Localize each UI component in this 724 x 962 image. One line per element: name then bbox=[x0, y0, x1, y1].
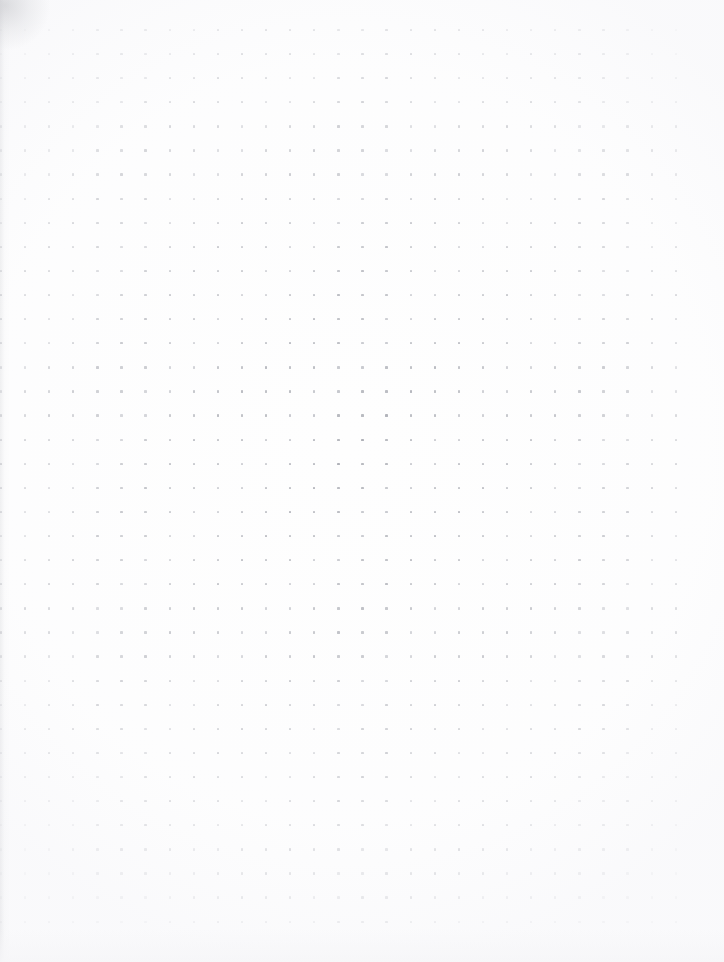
grid-dot bbox=[217, 439, 219, 441]
grid-dot bbox=[120, 318, 122, 320]
grid-dot bbox=[313, 631, 315, 633]
grid-dot bbox=[385, 246, 387, 248]
grid-dot bbox=[602, 776, 604, 778]
grid-dot bbox=[675, 752, 677, 754]
grid-dot bbox=[458, 655, 460, 657]
grid-dot bbox=[458, 800, 460, 802]
grid-dot bbox=[313, 776, 315, 778]
grid-dot bbox=[241, 101, 243, 103]
grid-dot bbox=[651, 704, 653, 706]
grid-dot bbox=[72, 77, 74, 79]
grid-dot bbox=[193, 921, 195, 923]
grid-dot bbox=[410, 680, 412, 682]
grid-dot bbox=[482, 77, 484, 79]
grid-dot bbox=[289, 198, 291, 200]
grid-dot bbox=[410, 101, 412, 103]
grid-dot bbox=[0, 921, 2, 923]
grid-dot bbox=[48, 848, 50, 850]
grid-dot bbox=[24, 800, 26, 802]
grid-dot bbox=[482, 149, 484, 151]
grid-dot bbox=[361, 53, 363, 55]
grid-dot bbox=[506, 390, 508, 392]
grid-dot bbox=[289, 101, 291, 103]
grid-dot bbox=[554, 848, 556, 850]
grid-dot bbox=[193, 559, 195, 561]
grid-dot bbox=[578, 631, 580, 633]
grid-dot bbox=[337, 125, 339, 127]
grid-dot bbox=[241, 222, 243, 224]
grid-dot bbox=[410, 53, 412, 55]
grid-dot bbox=[24, 704, 26, 706]
grid-dot bbox=[144, 77, 146, 79]
grid-dot bbox=[96, 704, 98, 706]
grid-dot bbox=[96, 246, 98, 248]
grid-dot bbox=[530, 246, 532, 248]
grid-dot bbox=[120, 631, 122, 633]
grid-dot bbox=[24, 487, 26, 489]
grid-dot bbox=[72, 800, 74, 802]
grid-dot bbox=[602, 222, 604, 224]
grid-dot bbox=[0, 607, 2, 609]
grid-dot bbox=[578, 463, 580, 465]
grid-dot bbox=[626, 896, 628, 898]
grid-dot bbox=[530, 270, 532, 272]
grid-dot bbox=[506, 198, 508, 200]
grid-dot bbox=[530, 680, 532, 682]
grid-dot bbox=[458, 824, 460, 826]
grid-dot bbox=[410, 535, 412, 537]
grid-dot bbox=[217, 752, 219, 754]
grid-dot bbox=[410, 631, 412, 633]
grid-dot bbox=[675, 198, 677, 200]
grid-dot bbox=[241, 270, 243, 272]
grid-dot bbox=[217, 896, 219, 898]
grid-dot bbox=[578, 29, 580, 31]
grid-dot bbox=[24, 270, 26, 272]
grid-dot bbox=[313, 222, 315, 224]
grid-dot bbox=[626, 704, 628, 706]
grid-dot bbox=[120, 414, 122, 416]
grid-dot bbox=[675, 728, 677, 730]
grid-dot bbox=[410, 511, 412, 513]
grid-dot bbox=[578, 342, 580, 344]
grid-dot bbox=[193, 535, 195, 537]
grid-dot bbox=[385, 270, 387, 272]
grid-dot bbox=[337, 149, 339, 151]
grid-dot bbox=[385, 559, 387, 561]
grid-dot bbox=[217, 680, 219, 682]
grid-dot bbox=[24, 583, 26, 585]
grid-dot bbox=[434, 342, 436, 344]
grid-dot bbox=[120, 29, 122, 31]
grid-dot bbox=[626, 463, 628, 465]
grid-dot bbox=[241, 921, 243, 923]
grid-dot bbox=[265, 583, 267, 585]
grid-dot bbox=[217, 511, 219, 513]
grid-dot bbox=[313, 824, 315, 826]
grid-dot bbox=[554, 390, 556, 392]
grid-dot bbox=[24, 149, 26, 151]
grid-dot bbox=[0, 198, 2, 200]
dot-grid-layer bbox=[0, 0, 724, 962]
grid-dot bbox=[289, 222, 291, 224]
grid-dot bbox=[265, 29, 267, 31]
grid-dot bbox=[554, 246, 556, 248]
grid-dot bbox=[337, 318, 339, 320]
grid-dot bbox=[410, 342, 412, 344]
grid-dot bbox=[120, 728, 122, 730]
grid-dot bbox=[385, 53, 387, 55]
grid-dot bbox=[24, 53, 26, 55]
grid-dot bbox=[458, 270, 460, 272]
grid-dot bbox=[120, 921, 122, 923]
grid-dot bbox=[169, 222, 171, 224]
grid-dot bbox=[96, 921, 98, 923]
grid-dot bbox=[410, 198, 412, 200]
grid-dot bbox=[385, 342, 387, 344]
grid-dot bbox=[458, 53, 460, 55]
grid-dot bbox=[24, 607, 26, 609]
grid-dot bbox=[289, 583, 291, 585]
grid-dot bbox=[217, 848, 219, 850]
grid-dot bbox=[24, 29, 26, 31]
grid-dot bbox=[554, 53, 556, 55]
grid-dot bbox=[458, 896, 460, 898]
grid-dot bbox=[24, 896, 26, 898]
grid-dot bbox=[458, 631, 460, 633]
